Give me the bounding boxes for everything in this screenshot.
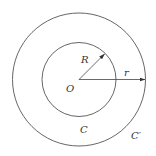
outer-circle-label: C′ bbox=[131, 131, 141, 141]
center-label: O bbox=[66, 84, 74, 94]
inner-radius-label: R bbox=[81, 55, 89, 65]
inner-circle-label: C bbox=[80, 125, 88, 135]
outer-radius-label: r bbox=[124, 68, 129, 78]
